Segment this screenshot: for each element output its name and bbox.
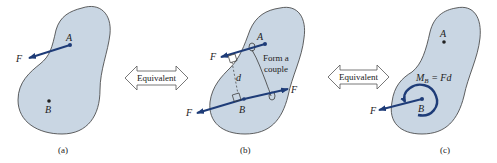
point-a-label: A <box>256 31 264 42</box>
couple-annotation-line2: couple <box>264 64 288 74</box>
panel-c: A B F MB = Fd (c) <box>369 7 480 155</box>
point-b-label: B <box>239 104 245 115</box>
caption-c: (c) <box>440 145 450 155</box>
panel-b: A B F F F d Form a couple (b) <box>185 7 305 155</box>
rigid-body-shape <box>210 7 305 134</box>
panel-a: A B F (a) <box>15 6 110 155</box>
couple-annotation-line1: Form a <box>263 53 289 63</box>
point-a-label: A <box>65 32 73 43</box>
point-b-dot <box>242 97 246 101</box>
point-b-dot <box>47 99 51 103</box>
equivalence-arrow-1: Equivalent <box>125 66 188 90</box>
force-label-f-at-a: F <box>209 51 217 62</box>
point-b-label: B <box>45 104 51 115</box>
rigid-body-shape <box>391 7 480 134</box>
equivalence-arrow-2: Equivalent <box>328 65 389 89</box>
point-a-dot <box>442 40 446 44</box>
equivalent-label: Equivalent <box>339 72 378 82</box>
point-a-label: A <box>439 28 447 39</box>
force-label-f: F <box>369 105 377 116</box>
diagram-canvas: A B F (a) Equivalent A B F F F d Fo <box>0 0 497 163</box>
point-b-label: B <box>418 103 424 114</box>
point-a-dot <box>263 42 267 46</box>
force-label-f-at-b-left: F <box>185 107 193 118</box>
point-a-dot <box>68 43 72 47</box>
rigid-body-shape <box>18 6 110 134</box>
force-label-f-at-b-right: F <box>290 84 298 95</box>
equivalent-label: Equivalent <box>137 73 176 83</box>
point-b-dot <box>420 97 424 101</box>
caption-a: (a) <box>58 145 68 155</box>
force-label-f: F <box>15 53 23 64</box>
caption-b: (b) <box>240 145 251 155</box>
right-angle-marker-top <box>228 54 237 63</box>
